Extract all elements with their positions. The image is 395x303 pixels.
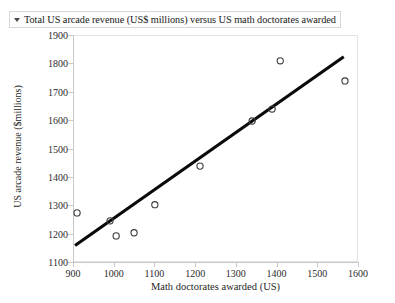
- x-tick-mark: [317, 263, 318, 267]
- y-tick-mark: [68, 35, 73, 36]
- x-tick-mark: [114, 263, 115, 267]
- y-axis-label: US arcade revenue ($millions): [12, 72, 23, 222]
- scatter-chart: 110012001300140015001600170018001900 900…: [0, 28, 395, 303]
- y-tick-mark: [68, 205, 73, 206]
- y-tick-mark: [68, 234, 73, 235]
- x-tick-mark: [195, 263, 196, 267]
- x-tick-label: 1300: [226, 268, 246, 279]
- x-tick-label: 1000: [104, 268, 124, 279]
- x-tick-mark: [154, 263, 155, 267]
- y-tick-mark: [68, 120, 73, 121]
- y-tick-label: 1400: [48, 171, 68, 182]
- x-tick-label: 1600: [348, 268, 368, 279]
- x-tick-label: 900: [66, 268, 81, 279]
- x-tick-mark: [277, 263, 278, 267]
- y-tick-label: 1800: [48, 58, 68, 69]
- x-tick-label: 1100: [145, 268, 165, 279]
- y-tick-label: 1600: [48, 115, 68, 126]
- y-axis-ticks: 110012001300140015001600170018001900: [0, 28, 68, 303]
- chart-title-bar[interactable]: Total US arcade revenue (US$ millions) v…: [9, 11, 341, 28]
- x-tick-mark: [73, 263, 74, 267]
- plot-area: [73, 35, 358, 262]
- y-tick-label: 1700: [48, 86, 68, 97]
- x-tick-mark: [358, 263, 359, 267]
- y-tick-label: 1900: [48, 30, 68, 41]
- x-tick-label: 1400: [267, 268, 287, 279]
- y-tick-mark: [68, 177, 73, 178]
- x-tick-label: 1200: [185, 268, 205, 279]
- x-tick-mark: [236, 263, 237, 267]
- y-tick-label: 1100: [48, 257, 68, 268]
- x-axis-line: [73, 262, 359, 263]
- y-tick-label: 1300: [48, 200, 68, 211]
- y-tick-mark: [68, 92, 73, 93]
- y-tick-mark: [68, 149, 73, 150]
- y-axis-line: [73, 35, 74, 263]
- x-tick-label: 1500: [307, 268, 327, 279]
- disclosure-triangle-icon[interactable]: [14, 18, 20, 22]
- y-tick-label: 1200: [48, 228, 68, 239]
- y-tick-label: 1500: [48, 143, 68, 154]
- y-tick-mark: [68, 63, 73, 64]
- chart-title: Total US arcade revenue (US$ millions) v…: [24, 14, 336, 25]
- x-axis-label: Math doctorates awarded (US): [73, 281, 358, 292]
- chart-page: Total US arcade revenue (US$ millions) v…: [0, 0, 395, 303]
